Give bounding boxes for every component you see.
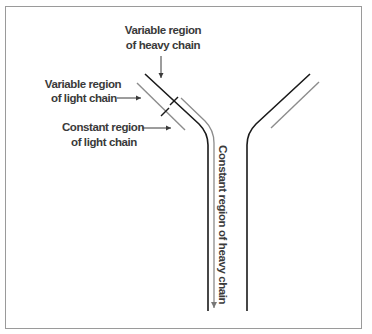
left-heavy-chain — [145, 74, 208, 311]
left-light-chain — [137, 83, 185, 130]
right-heavy-chain — [247, 74, 310, 311]
light-chain-divider-tick — [161, 108, 169, 116]
heavy-constant-indicator-arrow — [181, 98, 214, 308]
label-light-constant-line1: Constant region — [62, 121, 145, 133]
label-light-constant-line2: of light chain — [71, 136, 137, 148]
label-light-variable-line2: of light chain — [51, 92, 117, 104]
antibody-diagram: Variable region of heavy chain Variable … — [0, 0, 372, 334]
label-heavy-constant: Constant region of heavy chain — [217, 145, 229, 305]
label-heavy-variable-line2: of heavy chain — [126, 39, 201, 51]
label-heavy-variable-line1: Variable region — [125, 24, 202, 36]
label-light-variable-line1: Variable region — [45, 78, 122, 90]
